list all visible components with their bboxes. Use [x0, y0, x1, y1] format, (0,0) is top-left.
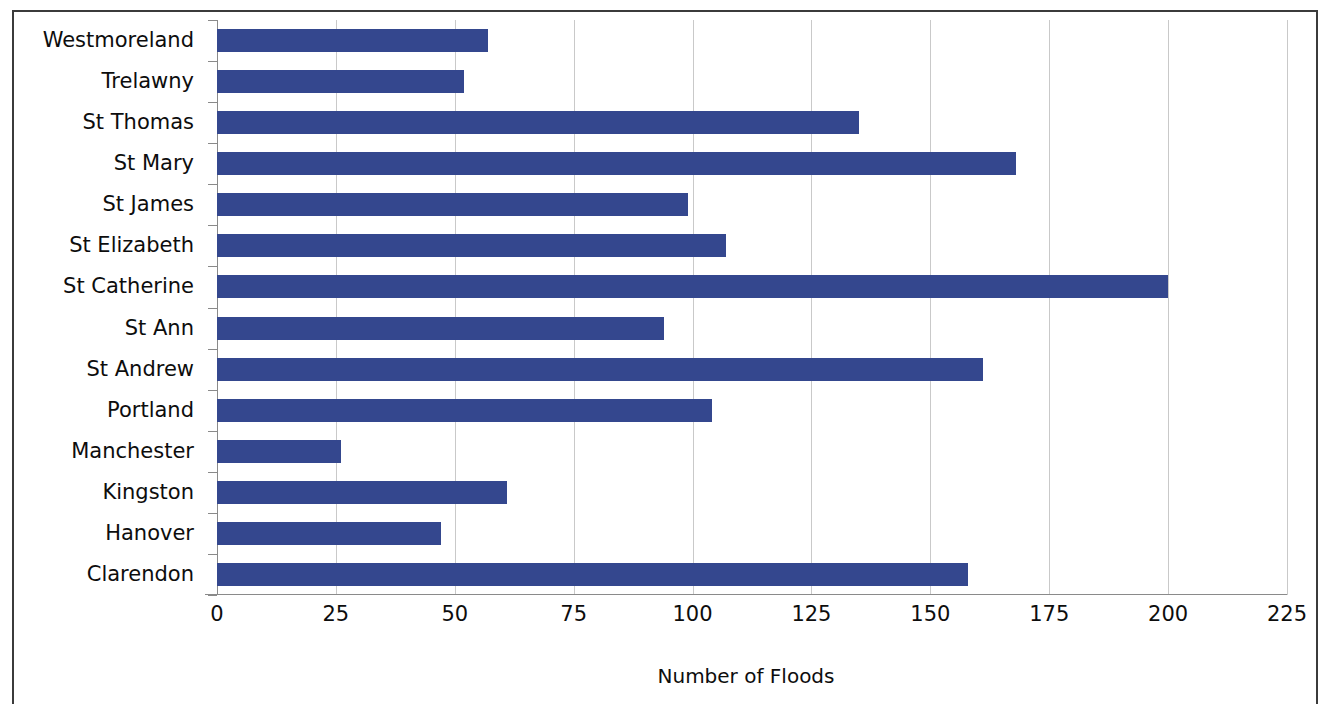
bar-row: [205, 102, 1287, 143]
x-axis-tick-labels: 0255075100125150175200225: [205, 602, 1287, 642]
y-tick-mark: [208, 102, 217, 103]
plot-area: [205, 20, 1287, 595]
bar-trelawny[interactable]: [217, 70, 464, 93]
bar-st-andrew[interactable]: [217, 358, 983, 381]
category-label-st-andrew: St Andrew: [86, 349, 194, 390]
category-label-st-james: St James: [102, 184, 194, 225]
bar-st-thomas[interactable]: [217, 111, 859, 134]
bar-row: [205, 472, 1287, 513]
bar-hanover[interactable]: [217, 522, 441, 545]
bar-row: [205, 143, 1287, 184]
bar-row: [205, 554, 1287, 595]
bar-row: [205, 266, 1287, 307]
bar-row: [205, 184, 1287, 225]
category-label-st-elizabeth: St Elizabeth: [69, 225, 194, 266]
gridline-225: [1287, 20, 1288, 595]
x-axis-line: [205, 594, 1287, 595]
bar-st-catherine[interactable]: [217, 275, 1168, 298]
bar-row: [205, 61, 1287, 102]
x-tick-label-0: 0: [210, 602, 223, 626]
y-tick-mark: [208, 349, 217, 350]
bar-row: [205, 349, 1287, 390]
category-label-hanover: Hanover: [105, 513, 194, 554]
bar-row: [205, 390, 1287, 431]
y-tick-mark: [208, 184, 217, 185]
x-tick-label-175: 175: [1029, 602, 1069, 626]
category-label-portland: Portland: [107, 390, 194, 431]
x-tick-label-225: 225: [1267, 602, 1307, 626]
category-label-westmoreland: Westmoreland: [43, 20, 194, 61]
bar-row: [205, 431, 1287, 472]
bar-row: [205, 308, 1287, 349]
category-label-st-mary: St Mary: [114, 143, 194, 184]
category-label-manchester: Manchester: [71, 431, 194, 472]
category-label-st-catherine: St Catherine: [63, 266, 194, 307]
category-label-trelawny: Trelawny: [102, 61, 194, 102]
bar-row: [205, 20, 1287, 61]
x-tick-label-100: 100: [673, 602, 713, 626]
plot-inner: [205, 20, 1287, 595]
y-tick-mark: [208, 61, 217, 62]
y-tick-mark: [208, 472, 217, 473]
y-tick-mark: [208, 390, 217, 391]
x-axis-title: Number of Floods: [205, 664, 1287, 688]
bar-manchester[interactable]: [217, 440, 341, 463]
y-tick-mark: [208, 20, 217, 21]
bar-row: [205, 225, 1287, 266]
category-label-kingston: Kingston: [102, 472, 194, 513]
bar-portland[interactable]: [217, 399, 712, 422]
y-tick-mark: [208, 225, 217, 226]
bar-clarendon[interactable]: [217, 563, 968, 586]
category-label-st-ann: St Ann: [125, 308, 194, 349]
bar-row: [205, 513, 1287, 554]
y-tick-mark: [208, 595, 217, 596]
category-label-clarendon: Clarendon: [87, 554, 194, 595]
x-tick-label-150: 150: [910, 602, 950, 626]
bar-st-james[interactable]: [217, 193, 688, 216]
x-tick-label-125: 125: [791, 602, 831, 626]
bar-st-elizabeth[interactable]: [217, 234, 726, 257]
y-tick-mark: [208, 266, 217, 267]
bar-st-mary[interactable]: [217, 152, 1016, 175]
x-tick-label-25: 25: [323, 602, 350, 626]
bar-st-ann[interactable]: [217, 317, 664, 340]
x-tick-label-200: 200: [1148, 602, 1188, 626]
bar-kingston[interactable]: [217, 481, 507, 504]
x-tick-label-75: 75: [560, 602, 587, 626]
chart-frame: WestmorelandTrelawnySt ThomasSt MarySt J…: [12, 10, 1318, 704]
y-tick-mark: [208, 308, 217, 309]
y-tick-mark: [208, 554, 217, 555]
y-axis-category-labels: WestmorelandTrelawnySt ThomasSt MarySt J…: [14, 20, 202, 595]
category-label-st-thomas: St Thomas: [83, 102, 195, 143]
y-tick-mark: [208, 431, 217, 432]
bar-westmoreland[interactable]: [217, 29, 488, 52]
y-tick-mark: [208, 143, 217, 144]
x-tick-label-50: 50: [441, 602, 468, 626]
bar-rows: [205, 20, 1287, 595]
y-tick-mark: [208, 513, 217, 514]
